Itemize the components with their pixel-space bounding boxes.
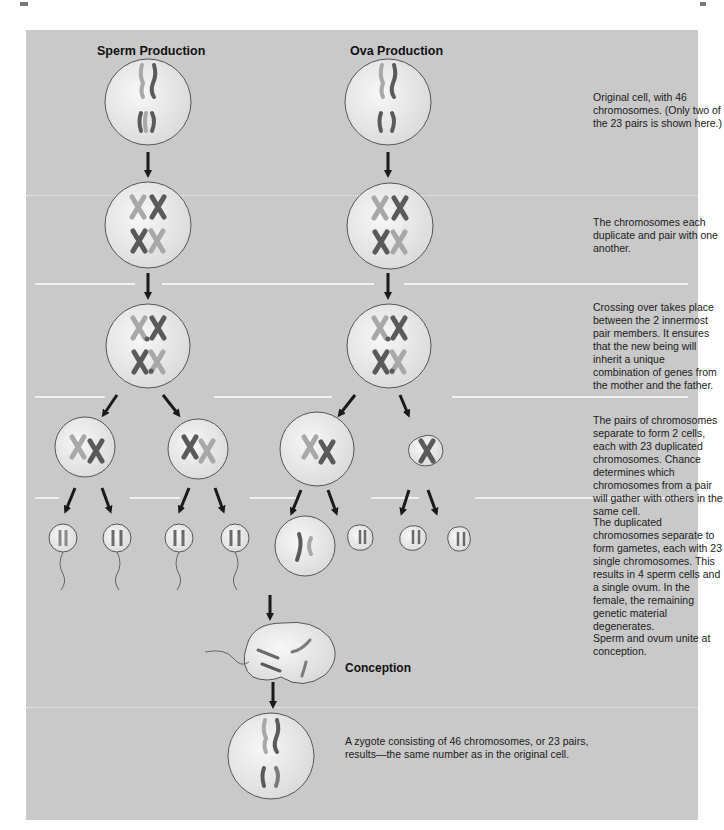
sperm-secondary-cell-2 xyxy=(168,419,228,479)
sperm-cell-2 xyxy=(103,524,131,590)
ovum-cell xyxy=(275,516,335,576)
sperm-duplicated-cell xyxy=(105,182,191,268)
zygote-cell xyxy=(228,713,314,799)
ova-polar-body xyxy=(408,435,443,466)
polar-body-1 xyxy=(348,525,373,550)
sperm-cell-1 xyxy=(49,524,77,590)
polar-body-3 xyxy=(448,527,471,551)
ova-duplicated-cell xyxy=(347,183,433,269)
conception-cell xyxy=(205,622,335,683)
sperm-crossing-over-cell xyxy=(106,304,190,388)
meiosis-diagram xyxy=(0,0,724,830)
ova-original-cell xyxy=(345,59,431,145)
ova-crossing-over-cell xyxy=(347,304,431,388)
polar-body-2 xyxy=(400,526,427,551)
ova-secondary-oocyte xyxy=(280,412,354,486)
sperm-cell-3 xyxy=(165,524,193,590)
sperm-cell-4 xyxy=(221,524,249,590)
sperm-original-cell xyxy=(105,59,191,145)
sperm-secondary-cell-1 xyxy=(55,417,115,477)
